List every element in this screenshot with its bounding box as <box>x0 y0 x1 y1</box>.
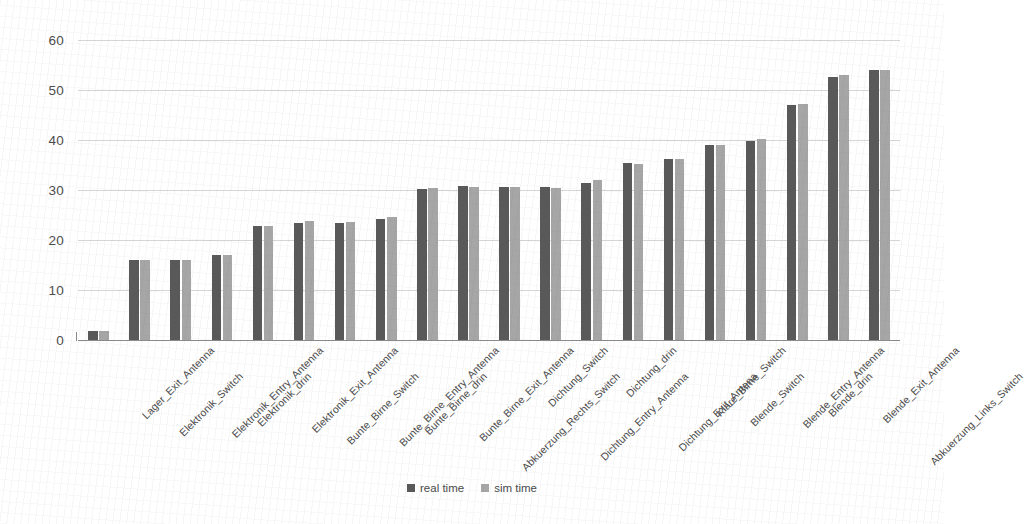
bar-real-time <box>294 223 304 340</box>
bar-group <box>119 40 160 340</box>
bar-group <box>78 40 119 340</box>
x-tick-label: Elektronik_Exit_Antenna <box>309 344 400 435</box>
bar-real-time <box>253 226 263 341</box>
bar-sim-time <box>182 260 192 341</box>
bar-group <box>859 40 900 340</box>
bar-group <box>160 40 201 340</box>
bar-real-time <box>129 260 139 341</box>
chart-legend: real timesim time <box>0 482 944 494</box>
bar-group <box>407 40 448 340</box>
bar-sim-time <box>264 226 274 341</box>
bar-real-time <box>376 219 386 341</box>
bar-sim-time <box>305 221 315 340</box>
bar-real-time <box>417 189 427 341</box>
x-tick-label: Abkuerzung_Links_Switch <box>928 370 1025 467</box>
bar-real-time <box>335 223 345 340</box>
bar-real-time <box>869 70 879 341</box>
bar-sim-time <box>839 75 849 341</box>
bar-group <box>325 40 366 340</box>
bar-real-time <box>458 186 468 340</box>
bar-sim-time <box>223 255 233 340</box>
y-tick-label-40: 40 <box>0 133 64 148</box>
bar-sim-time <box>634 164 644 341</box>
bar-sim-time <box>880 70 890 341</box>
bar-sim-time <box>757 139 767 340</box>
bar-group <box>695 40 736 340</box>
y-tick-label-30: 30 <box>0 183 64 198</box>
x-tick-label: Blende_Exit_Antenna <box>880 344 961 425</box>
legend-swatch-icon <box>481 484 489 492</box>
bar-group <box>612 40 653 340</box>
bar-sim-time <box>510 187 520 340</box>
bar-sim-time <box>551 188 561 340</box>
bar-group <box>448 40 489 340</box>
bar-group <box>530 40 571 340</box>
bar-real-time <box>212 255 222 340</box>
y-tick-label-60: 60 <box>0 33 64 48</box>
bar-group <box>736 40 777 340</box>
legend-item[interactable]: real time <box>407 482 464 494</box>
bar-real-time <box>664 159 674 340</box>
y-tick-label-50: 50 <box>0 83 64 98</box>
bar-real-time <box>787 105 797 340</box>
bar-sim-time <box>387 217 397 340</box>
bar-sim-time <box>593 180 603 340</box>
bar-real-time <box>746 141 756 340</box>
bar-group <box>242 40 283 340</box>
bar-sim-time <box>99 331 109 340</box>
axis-baseline <box>78 340 900 341</box>
bar-sim-time <box>140 260 150 341</box>
bar-real-time <box>581 183 591 341</box>
bar-group <box>571 40 612 340</box>
x-tick-label: Blende_Entry_Antenna <box>800 344 886 430</box>
bar-real-time <box>499 187 509 341</box>
bar-real-time <box>623 163 633 341</box>
legend-item[interactable]: sim time <box>481 482 537 494</box>
bar-sim-time <box>716 145 726 341</box>
bar-group <box>366 40 407 340</box>
bar-group <box>653 40 694 340</box>
bar-group <box>818 40 859 340</box>
legend-label: real time <box>420 482 464 494</box>
bar-real-time <box>170 260 180 341</box>
plot-area <box>78 40 900 340</box>
y-tick-label-0: 0 <box>0 333 64 348</box>
bar-group <box>777 40 818 340</box>
bar-sim-time <box>346 222 356 341</box>
bar-real-time <box>540 187 550 340</box>
legend-label: sim time <box>494 482 537 494</box>
bar-group <box>489 40 530 340</box>
bar-sim-time <box>469 187 479 340</box>
y-tick-label-10: 10 <box>0 283 64 298</box>
x-axis-labels: Lager_Exit_AntennaElektronik_SwitchElekt… <box>78 344 900 474</box>
bar-group <box>284 40 325 340</box>
y-tick-label-20: 20 <box>0 233 64 248</box>
bar-real-time <box>705 145 715 341</box>
bar-real-time <box>88 331 98 340</box>
bar-sim-time <box>798 104 808 341</box>
bar-real-time <box>828 77 838 340</box>
bar-sim-time <box>675 159 685 340</box>
bar-group <box>201 40 242 340</box>
bar-sim-time <box>428 188 438 340</box>
legend-swatch-icon <box>407 484 415 492</box>
